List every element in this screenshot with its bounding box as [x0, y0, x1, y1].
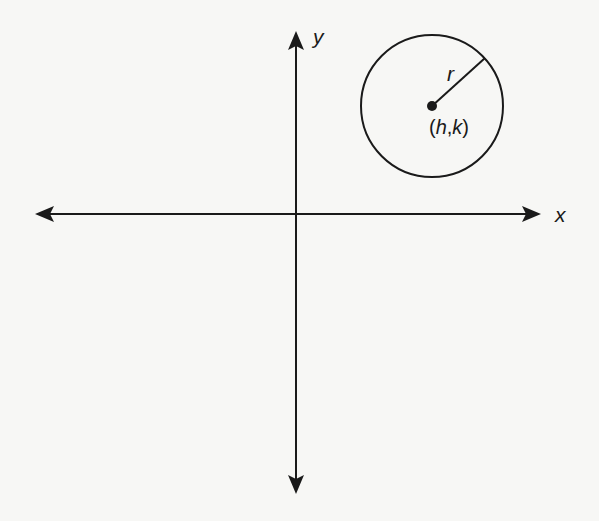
center-h: h — [436, 116, 447, 138]
radius-segment — [432, 58, 485, 106]
center-point — [427, 101, 437, 111]
diagram-canvas: y x r (h,k) — [0, 0, 599, 521]
circle-shape — [361, 35, 503, 177]
radius-label: r — [447, 63, 454, 84]
x-axis — [35, 206, 541, 222]
x-axis-label: x — [555, 204, 566, 225]
center-k: k — [452, 116, 462, 138]
y-axis-label: y — [313, 26, 324, 47]
paren-open: ( — [429, 116, 436, 138]
coordinate-plane — [0, 0, 599, 521]
y-axis — [288, 31, 304, 494]
center-label: (h,k) — [429, 117, 469, 137]
paren-close: ) — [462, 116, 469, 138]
